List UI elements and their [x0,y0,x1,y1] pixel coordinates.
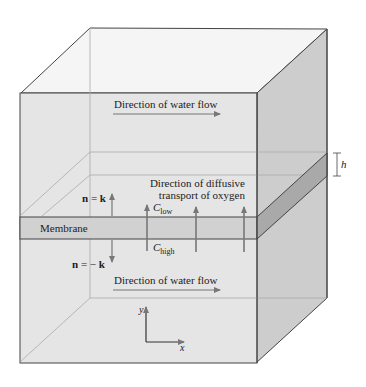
membrane-label: Membrane [40,222,88,234]
thickness-marker: h [333,153,347,176]
normal-down-label: n = − k [72,258,106,270]
y-axis-label: y [138,304,144,315]
normal-up-label: n = k [82,192,107,204]
diffusive-label-line2: transport of oxygen [159,189,246,201]
water-flow-label-top: Direction of water flow [114,98,218,110]
water-flow-label-bottom: Direction of water flow [114,274,218,286]
h-label: h [341,158,347,170]
diffusive-label-line1: Direction of diffusive [150,177,245,189]
x-axis-label: x [179,342,185,353]
membrane-diagram: h Direction of water flow Direction of d… [0,0,366,387]
